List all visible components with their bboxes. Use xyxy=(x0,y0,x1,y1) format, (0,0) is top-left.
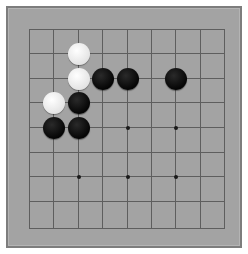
board-intersection[interactable] xyxy=(163,17,187,41)
black-stone[interactable] xyxy=(68,117,90,139)
board-intersection[interactable] xyxy=(115,90,139,114)
board-intersection[interactable] xyxy=(66,189,90,213)
board-intersection[interactable] xyxy=(212,140,236,164)
board-intersection[interactable] xyxy=(139,164,163,188)
board-intersection[interactable] xyxy=(41,140,65,164)
star-point xyxy=(126,126,130,130)
board-intersection[interactable] xyxy=(41,189,65,213)
board-intersection[interactable] xyxy=(139,90,163,114)
board-intersection[interactable] xyxy=(17,216,41,240)
board-intersection[interactable] xyxy=(41,17,65,41)
board-intersection[interactable] xyxy=(41,66,65,90)
board-intersection[interactable] xyxy=(139,216,163,240)
board-intersection[interactable] xyxy=(17,66,41,90)
board-intersection[interactable] xyxy=(90,90,114,114)
black-stone[interactable] xyxy=(92,68,114,90)
board-intersection[interactable] xyxy=(188,189,212,213)
board-intersection[interactable] xyxy=(139,189,163,213)
board-intersection[interactable] xyxy=(212,164,236,188)
star-point xyxy=(126,175,130,179)
board-intersection[interactable] xyxy=(90,164,114,188)
board-intersection[interactable] xyxy=(212,90,236,114)
black-stone[interactable] xyxy=(68,92,90,114)
board-intersection[interactable] xyxy=(188,216,212,240)
board-intersection[interactable] xyxy=(139,115,163,139)
board-intersection[interactable] xyxy=(90,41,114,65)
board-intersection[interactable] xyxy=(17,41,41,65)
board-intersection[interactable] xyxy=(66,140,90,164)
star-point xyxy=(77,175,81,179)
board-intersection[interactable] xyxy=(17,140,41,164)
board-intersection[interactable] xyxy=(188,90,212,114)
board-intersection[interactable] xyxy=(212,115,236,139)
board-intersection[interactable] xyxy=(90,115,114,139)
board-intersection[interactable] xyxy=(212,17,236,41)
board-intersection[interactable] xyxy=(163,90,187,114)
board-intersection[interactable] xyxy=(41,216,65,240)
board-intersection[interactable] xyxy=(139,140,163,164)
board-intersection[interactable] xyxy=(212,189,236,213)
black-stone[interactable] xyxy=(165,68,187,90)
board-intersection[interactable] xyxy=(188,17,212,41)
board-intersection[interactable] xyxy=(163,140,187,164)
board-intersection[interactable] xyxy=(115,216,139,240)
board-intersection[interactable] xyxy=(115,41,139,65)
board-intersection[interactable] xyxy=(163,189,187,213)
board-intersection[interactable] xyxy=(41,41,65,65)
board-intersection[interactable] xyxy=(115,189,139,213)
board-intersection[interactable] xyxy=(66,17,90,41)
board-intersection[interactable] xyxy=(17,115,41,139)
white-stone[interactable] xyxy=(68,68,90,90)
star-point xyxy=(174,175,178,179)
board-intersection[interactable] xyxy=(17,189,41,213)
board-intersection[interactable] xyxy=(115,140,139,164)
board-intersection[interactable] xyxy=(139,66,163,90)
board-intersection[interactable] xyxy=(66,216,90,240)
board-intersection[interactable] xyxy=(90,189,114,213)
black-stone[interactable] xyxy=(117,68,139,90)
board-intersection[interactable] xyxy=(163,41,187,65)
board-intersection[interactable] xyxy=(188,66,212,90)
board-intersection[interactable] xyxy=(41,164,65,188)
board-intersection[interactable] xyxy=(188,41,212,65)
board-intersection[interactable] xyxy=(188,164,212,188)
white-stone[interactable] xyxy=(43,92,65,114)
board-intersection[interactable] xyxy=(188,115,212,139)
board-intersection[interactable] xyxy=(139,41,163,65)
black-stone[interactable] xyxy=(43,117,65,139)
board-grid xyxy=(0,0,248,254)
white-stone[interactable] xyxy=(68,43,90,65)
board-intersection[interactable] xyxy=(212,216,236,240)
board-intersection[interactable] xyxy=(90,17,114,41)
board-intersection[interactable] xyxy=(212,41,236,65)
board-intersection[interactable] xyxy=(90,140,114,164)
board-intersection[interactable] xyxy=(115,17,139,41)
board-intersection[interactable] xyxy=(17,164,41,188)
board-intersection[interactable] xyxy=(90,216,114,240)
board-intersection[interactable] xyxy=(163,216,187,240)
board-intersection[interactable] xyxy=(212,66,236,90)
board-intersection[interactable] xyxy=(17,17,41,41)
board-intersection[interactable] xyxy=(139,17,163,41)
star-point xyxy=(174,126,178,130)
board-intersection[interactable] xyxy=(17,90,41,114)
board-intersection[interactable] xyxy=(188,140,212,164)
